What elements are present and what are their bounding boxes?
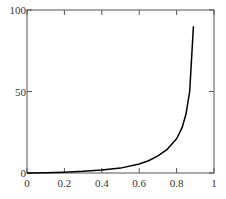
plot-frame: [27, 10, 214, 173]
x-tick-label: 0.2: [58, 177, 72, 189]
data-line: [27, 26, 193, 173]
x-tick-label: 0.4: [95, 177, 109, 189]
y-tick-label: 100: [10, 4, 27, 16]
y-axis-tick-labels: 050100: [10, 4, 27, 179]
x-tick-label: 0.8: [170, 177, 184, 189]
x-tick-label: 0.6: [132, 177, 146, 189]
x-axis-tick-labels: 00.20.40.60.81: [24, 177, 217, 189]
x-tick-label: 1: [211, 177, 217, 189]
y-tick-label: 0: [21, 167, 27, 179]
y-axis-ticks: [27, 10, 214, 173]
chart-canvas: 00.20.40.60.81 050100: [0, 0, 226, 199]
y-tick-label: 50: [15, 86, 27, 98]
x-axis-ticks: [27, 10, 214, 173]
